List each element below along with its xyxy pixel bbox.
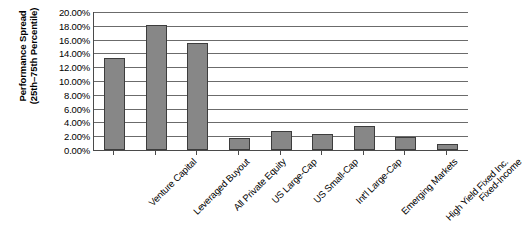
bar[interactable] (354, 126, 375, 150)
bar[interactable] (395, 137, 416, 150)
bar[interactable] (229, 138, 250, 150)
y-tick-label: 8.00% (64, 89, 90, 100)
y-tick-label: 6.00% (64, 103, 90, 114)
x-tick-mark (446, 151, 447, 155)
y-axis-title-line1: Performance Spread (17, 10, 29, 101)
bar-slot (302, 12, 344, 150)
bar[interactable] (146, 25, 167, 150)
y-tick-label: 20.00% (59, 7, 90, 18)
x-tick-mark (280, 151, 281, 155)
x-axis-tick-labels: Venture CapitalLeveraged BuyoutAll Priva… (93, 156, 467, 226)
x-tick-mark (363, 151, 364, 155)
y-tick-label: 16.00% (59, 34, 90, 45)
x-tick-mark (155, 151, 156, 155)
bar[interactable] (104, 58, 125, 150)
bar-slot (177, 12, 219, 150)
y-tick-label: 10.00% (59, 76, 90, 87)
y-tick-label: 2.00% (64, 131, 90, 142)
bar-slot (427, 12, 469, 150)
bar[interactable] (312, 134, 333, 150)
y-axis-title: Performance Spread (25th–75th Percentile… (8, 0, 48, 136)
x-tick-label: Int'l Large-Cap (353, 156, 403, 206)
bar-slot (136, 12, 178, 150)
bar-slot (385, 12, 427, 150)
bar-slot (260, 12, 302, 150)
bar-slot (94, 12, 136, 150)
y-tick-label: 0.00% (64, 145, 90, 156)
y-axis-tick-labels: 20.00%18.00%16.00%14.00%12.00%10.00%8.00… (49, 12, 93, 150)
bar-slot (219, 12, 261, 150)
y-tick-label: 12.00% (59, 62, 90, 73)
x-tick-mark (238, 151, 239, 155)
plot-area (93, 12, 468, 151)
x-tick-label: Venture Capital (146, 156, 198, 208)
x-tick-mark (113, 151, 114, 155)
bar[interactable] (271, 131, 292, 150)
x-tick-mark (404, 151, 405, 155)
bar[interactable] (187, 43, 208, 150)
y-tick-label: 14.00% (59, 48, 90, 59)
bars-layer (94, 12, 468, 150)
y-tick-label: 4.00% (64, 117, 90, 128)
y-tick-label: 18.00% (59, 20, 90, 31)
bar-slot (343, 12, 385, 150)
y-axis-title-line2: (25th–75th Percentile) (28, 8, 40, 105)
x-tick-mark (321, 151, 322, 155)
x-tick-mark (196, 151, 197, 155)
bar[interactable] (437, 144, 458, 150)
